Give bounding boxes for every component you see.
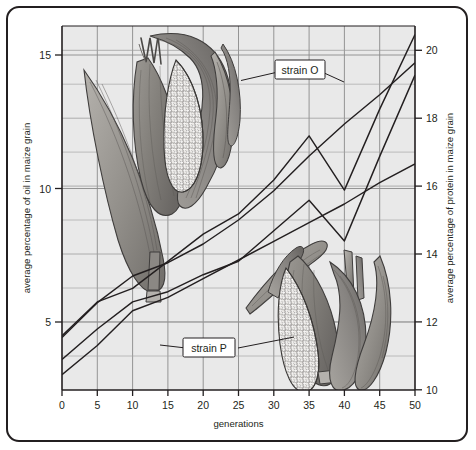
figure-root: strain O strain P 15 10 5 <box>0 0 476 450</box>
right-tick-16: 16 <box>426 180 438 192</box>
left-axis-tick-labels: 15 10 5 <box>39 49 51 328</box>
x-tick-5: 5 <box>94 399 100 411</box>
x-axis-ticks <box>62 390 415 396</box>
x-tick-25: 25 <box>233 399 245 411</box>
strain-o-label: strain O <box>282 64 319 76</box>
x-tick-50: 50 <box>409 399 421 411</box>
right-tick-12: 12 <box>426 316 438 328</box>
right-tick-10: 10 <box>426 384 438 396</box>
x-tick-15: 15 <box>162 399 174 411</box>
right-tick-14: 14 <box>426 248 438 260</box>
right-axis-tick-labels: 20 18 16 14 12 10 <box>426 44 438 396</box>
y2-axis-title: average percentage of protein in maize g… <box>444 113 455 303</box>
x-tick-20: 20 <box>197 399 209 411</box>
x-axis-tick-labels: 0 5 10 15 20 25 30 35 40 45 50 <box>59 399 421 411</box>
right-axis-ticks <box>415 50 422 390</box>
x-tick-45: 45 <box>374 399 386 411</box>
x-axis-title: generations <box>213 418 263 429</box>
x-tick-30: 30 <box>268 399 280 411</box>
x-tick-40: 40 <box>339 399 351 411</box>
x-tick-35: 35 <box>303 399 315 411</box>
left-axis-ticks <box>55 55 62 322</box>
right-tick-20: 20 <box>426 44 438 56</box>
right-tick-18: 18 <box>426 112 438 124</box>
x-tick-0: 0 <box>59 399 65 411</box>
maize-oil-protein-chart: strain O strain P 15 10 5 <box>0 0 476 450</box>
strain-p-label: strain P <box>191 342 227 354</box>
left-tick-10: 10 <box>39 183 51 195</box>
y-axis-title: average percentage of oil in maize grain <box>21 123 32 294</box>
left-tick-5: 5 <box>45 316 51 328</box>
left-tick-15: 15 <box>39 49 51 61</box>
x-tick-10: 10 <box>127 399 139 411</box>
